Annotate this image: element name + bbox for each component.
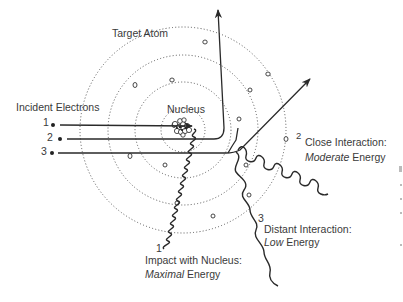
interaction-2-number: 2: [296, 130, 301, 141]
target-atom-label: Target Atom: [112, 27, 168, 39]
photon-1-wave: [163, 129, 195, 249]
electron-3-path: [58, 79, 310, 153]
electron-3-deflection: [228, 128, 238, 153]
electron-1-number: 1: [43, 116, 49, 128]
interaction-1-number: 1: [156, 242, 162, 254]
orbital-electrons: [128, 40, 288, 218]
interaction-2-title: Close Interaction:: [305, 136, 387, 148]
edge-marks: [399, 166, 402, 246]
nucleus-label: Nucleus: [167, 103, 205, 115]
interaction-2-energy: Moderate Energy: [305, 151, 386, 163]
electron-1-dot: [51, 123, 55, 127]
electron-3-dot: [50, 151, 54, 155]
interaction-1-energy: Maximal Energy: [145, 268, 221, 280]
electron-2-number: 2: [47, 131, 53, 143]
bremsstrahlung-diagram: Target Atom Nucleus Incident Electrons 1…: [0, 0, 403, 302]
incident-electrons-label: Incident Electrons: [16, 101, 99, 113]
electron-3-number: 3: [41, 145, 47, 157]
interaction-1-title: Impact with Nucleus:: [145, 254, 242, 266]
interaction-3-energy: Low Energy: [264, 236, 320, 248]
electron-2-dot: [58, 137, 62, 141]
interaction-3-title: Distant Interaction:: [264, 223, 352, 235]
